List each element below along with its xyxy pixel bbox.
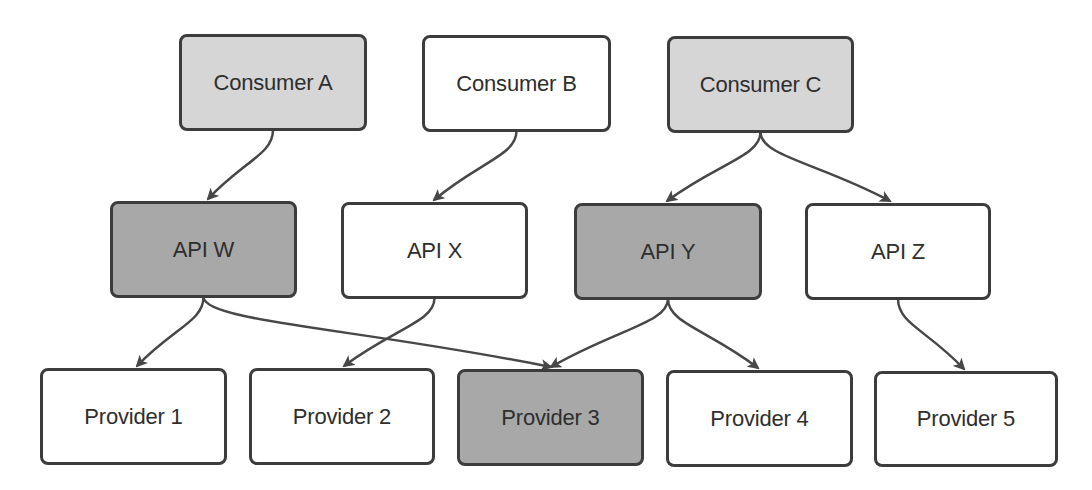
node-label: API Z <box>871 239 925 265</box>
edge-api-y-to-provider-4 <box>668 299 758 368</box>
node-provider-5[interactable]: Provider 5 <box>874 371 1058 467</box>
node-label: Provider 5 <box>917 406 1015 432</box>
node-label: Consumer A <box>213 70 332 96</box>
node-label: Provider 3 <box>501 405 599 431</box>
node-api-x[interactable]: API X <box>341 202 528 299</box>
node-label: API X <box>407 238 462 264</box>
node-provider-3[interactable]: Provider 3 <box>457 369 644 466</box>
node-api-w[interactable]: API W <box>110 201 297 298</box>
node-consumer-b[interactable]: Consumer B <box>422 35 611 132</box>
node-label: Consumer C <box>700 72 821 98</box>
node-label: Consumer B <box>456 71 576 97</box>
edge-api-x-to-provider-2 <box>344 298 435 366</box>
edge-api-z-to-provider-5 <box>898 299 964 369</box>
edge-consumer-c-to-api-z <box>761 132 891 201</box>
node-consumer-c[interactable]: Consumer C <box>667 36 854 133</box>
edge-consumer-a-to-api-w <box>208 130 273 199</box>
node-label: API Y <box>641 239 696 265</box>
node-provider-2[interactable]: Provider 2 <box>249 368 435 465</box>
edge-api-w-to-provider-3 <box>204 297 552 367</box>
node-consumer-a[interactable]: Consumer A <box>179 34 367 131</box>
node-label: Provider 2 <box>293 404 391 430</box>
node-provider-1[interactable]: Provider 1 <box>40 368 227 465</box>
edge-consumer-b-to-api-x <box>434 131 517 200</box>
node-api-z[interactable]: API Z <box>805 203 991 300</box>
edge-api-y-to-provider-3 <box>551 299 668 367</box>
node-label: Provider 4 <box>710 406 808 432</box>
edge-api-w-to-provider-1 <box>137 297 204 366</box>
dependency-diagram: Consumer A Consumer B Consumer C API W A… <box>0 0 1092 490</box>
node-label: API W <box>173 237 234 263</box>
edge-consumer-c-to-api-y <box>667 132 761 201</box>
node-api-y[interactable]: API Y <box>574 203 762 300</box>
node-provider-4[interactable]: Provider 4 <box>666 370 853 467</box>
node-label: Provider 1 <box>84 404 182 430</box>
